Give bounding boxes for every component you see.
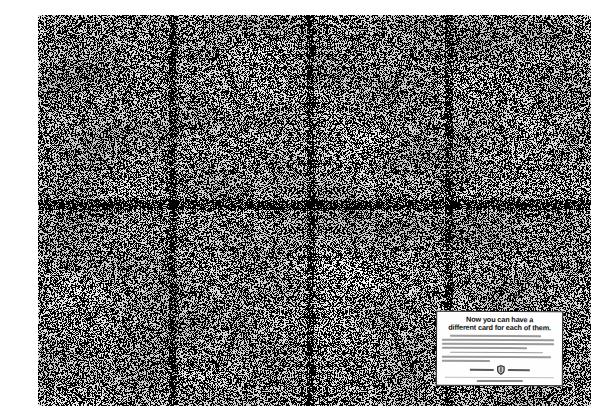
logo-word-right [507,369,529,372]
fine-print-line [442,343,554,345]
logo-row [442,365,557,376]
fine-print-line [442,355,551,357]
fine-print-line [442,339,554,341]
fine-print-line [450,351,543,353]
ad-headline-line2: different card for each of them. [442,324,557,333]
logo-divider [445,377,553,378]
shield-crest-icon [496,365,504,375]
ad-copy-box: Now you can have a different card for ea… [436,311,563,387]
logo-word-left [469,368,493,371]
fine-print-line [442,360,490,362]
fine-print-line [450,335,541,337]
fine-print-lines [442,335,557,363]
tagline-line [476,380,522,382]
magazine-page: Now you can have a different card for ea… [0,0,616,420]
fine-print-line [442,347,527,349]
ad-headline: Now you can have a different card for ea… [442,316,557,332]
